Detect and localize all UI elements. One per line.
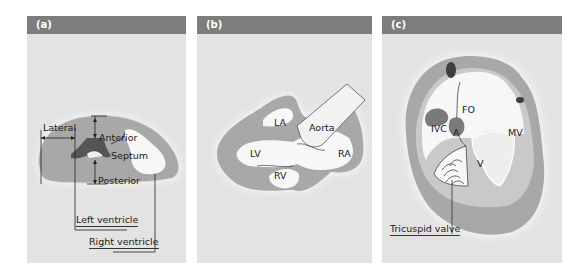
label-v: V (477, 159, 484, 169)
label-la: LA (274, 118, 286, 128)
label-lv: LV (250, 149, 261, 159)
label-left-ventricle: Left ventricle (76, 215, 138, 227)
label-mv: MV (508, 128, 523, 138)
label-fo: FO (462, 105, 475, 115)
label-right-ventricle: Right ventricle (89, 237, 159, 249)
panel-b: (b) LA Aorta LV RA RV (197, 16, 372, 263)
label-tricuspid-valve: Tricuspid valve (390, 224, 460, 236)
panel-c: (c) FO IVC A MV V Tricuspid valve (382, 16, 562, 263)
panel-c-title: (c) (382, 16, 562, 34)
label-rv: RV (274, 171, 287, 181)
label-lateral: Lateral (43, 123, 76, 133)
label-anterior: Anterior (99, 133, 137, 143)
panel-a: (a) (27, 16, 186, 263)
label-ivc: IVC (431, 124, 447, 134)
panel-a-title: (a) (27, 16, 186, 34)
label-ra: RA (338, 149, 351, 159)
label-a: A (453, 128, 460, 138)
short-axis-heart-diagram (27, 34, 186, 263)
label-septum: Septum (111, 151, 148, 161)
panel-b-title: (b) (197, 16, 372, 34)
label-posterior: Posterior (98, 176, 140, 186)
label-aorta: Aorta (309, 123, 335, 133)
